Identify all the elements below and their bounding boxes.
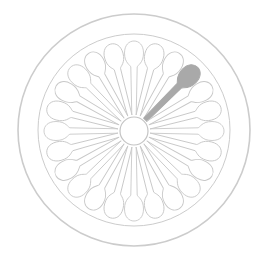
slot [125,147,144,221]
slot [102,144,140,220]
hub [120,117,148,145]
slot [45,126,121,164]
rotor-figure [0,0,256,257]
slot [45,99,121,137]
highlighted-slot [139,61,205,127]
slot [125,41,144,115]
slot [150,122,224,141]
slot [64,61,130,127]
slot [44,122,118,141]
slot [64,136,130,202]
slot [139,136,205,202]
slot [102,42,140,118]
slot [147,126,223,164]
rotor-wheel-icon [0,0,256,257]
slot [129,144,167,220]
